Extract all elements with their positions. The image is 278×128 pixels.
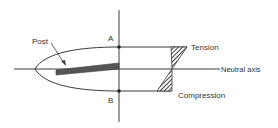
point-b-label: B [108, 96, 113, 105]
post-arrow-head-icon [61, 60, 66, 66]
tension-stress-triangle [171, 47, 187, 69]
point-a-label: A [108, 34, 114, 43]
tension-label: Tension [191, 43, 219, 52]
point-a-dot [117, 45, 121, 49]
point-b-dot [117, 89, 121, 93]
compression-label: Compression [178, 91, 225, 100]
post-label: Post [32, 37, 49, 46]
compression-stress-triangle [157, 69, 172, 91]
bending-stress-diagram: Post A B Tension Compression Neutral axi… [0, 0, 278, 128]
neutral-axis-label: Neutral axis [221, 65, 261, 74]
